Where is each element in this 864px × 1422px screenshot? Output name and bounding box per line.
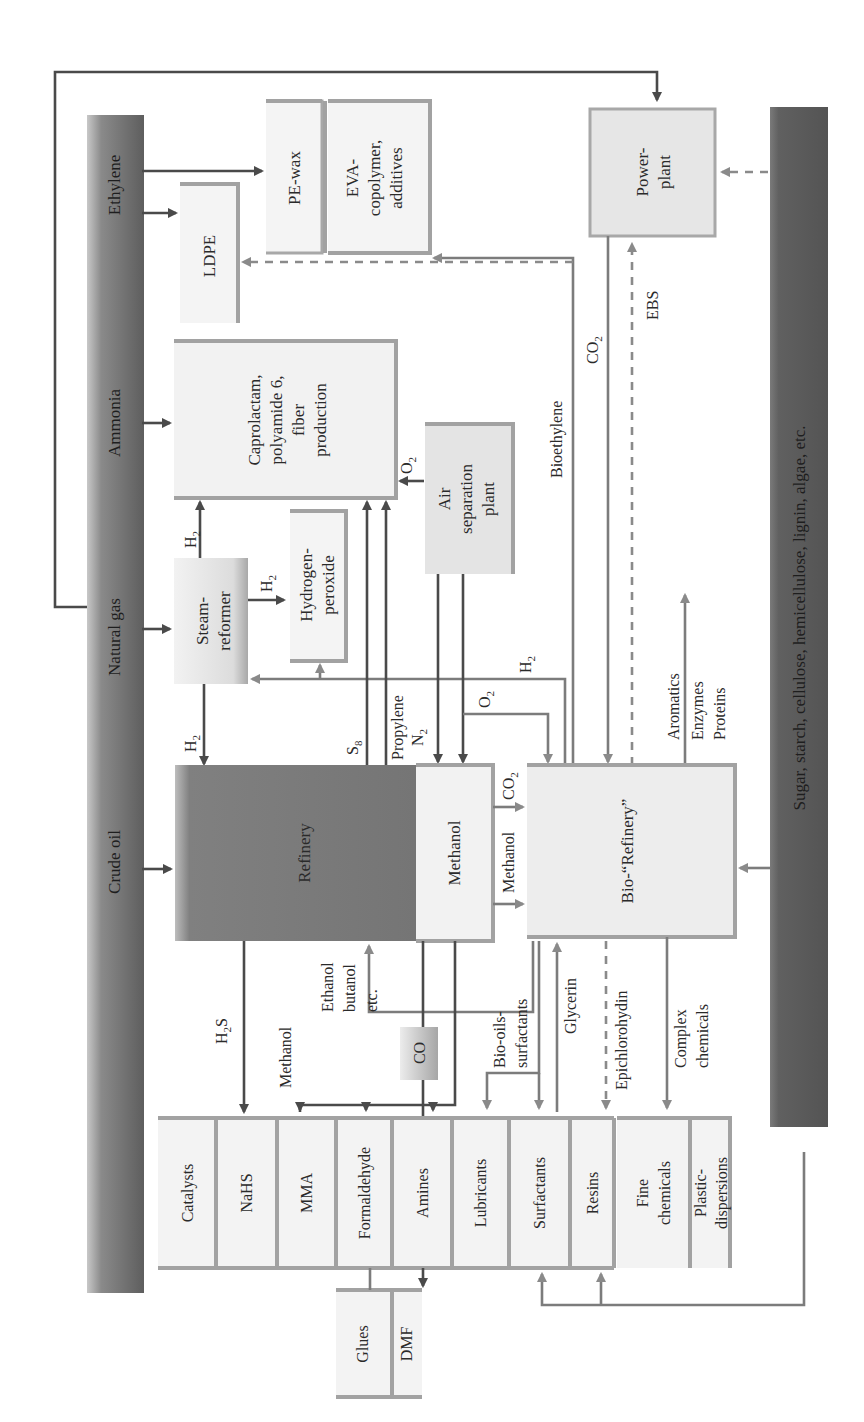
label-hydrogen-peroxide-2: peroxide	[319, 555, 338, 614]
label-glycerin: Glycerin	[562, 978, 580, 1034]
label-h2-return: H2	[517, 656, 537, 673]
product-lubricants: Lubricants	[472, 1159, 489, 1227]
label-hydrogen-peroxide-1: Hydrogen-	[297, 548, 316, 622]
label-caprolactam-1: Caprolactam,	[245, 374, 264, 465]
label-co2-methanol: CO2	[500, 772, 520, 800]
label-h2-peroxide: H2	[258, 575, 278, 592]
label-air-separation-2: separation	[457, 464, 476, 534]
label-o2-bio: O2	[476, 691, 496, 708]
label-proteins: Proteins	[711, 688, 728, 740]
process-diagram-main: O2	[0, 0, 864, 1422]
label-methanol-products: Methanol	[277, 1026, 294, 1088]
label-ethanol-2: butanol	[341, 963, 358, 1012]
label-enzymes: Enzymes	[689, 681, 707, 740]
label-natural-gas: Natural gas	[105, 598, 124, 676]
flow-h2-return	[252, 679, 565, 765]
label-renewable-feedstock: Sugar, starch, cellulose, hemicellulose,…	[790, 426, 809, 811]
product-formaldehyde: Formaldehyde	[356, 1147, 374, 1239]
product-plastic-dispersions-2: dispersions	[713, 1157, 731, 1229]
label-caprolactam-3: fiber	[289, 404, 308, 436]
label-steam-reformer-2: reformer	[215, 591, 234, 651]
label-caprolactam-2: polyamide 6,	[267, 376, 286, 465]
label-ebs: EBS	[644, 291, 661, 320]
label-pe-wax: PE-wax	[285, 151, 304, 205]
label-propylene: Propylene	[389, 695, 407, 760]
product-catalysts: Catalysts	[179, 1164, 197, 1223]
label-n2: N2	[409, 729, 429, 746]
product-fine-chemicals-2: chemicals	[656, 1161, 673, 1225]
label-caprolactam-4: production	[311, 383, 330, 457]
label-epichlorohydrin: Epichlorohydin	[613, 990, 631, 1090]
label-power-plant-2: plant	[655, 155, 674, 189]
label-co-unit: CO	[411, 1042, 428, 1064]
label-co2-power: CO2	[584, 336, 604, 364]
product-glues: Glues	[354, 1325, 371, 1362]
label-methanol-to-bio: Methanol	[500, 831, 517, 893]
label-o2-caprolactam: O2	[398, 457, 418, 474]
label-methanol-unit: Methanol	[445, 820, 464, 885]
label-h2-refinery: H2	[182, 735, 202, 752]
label-ldpe: LDPE	[200, 235, 219, 278]
flow-ethanol-to-refinery	[369, 941, 533, 1012]
product-amines: Amines	[414, 1168, 431, 1218]
product-nahs: NaHS	[238, 1173, 255, 1212]
product-fine-chemicals-1: Fine	[634, 1179, 651, 1207]
label-ethanol-1: Ethanol	[319, 962, 336, 1012]
label-aromatics: Aromatics	[665, 673, 682, 740]
label-ammonia: Ammonia	[105, 389, 124, 457]
flow-o2-to-bio	[463, 714, 548, 762]
product-mma: MMA	[298, 1173, 315, 1213]
label-refinery: Refinery	[295, 823, 314, 883]
label-h2s: H2S	[213, 1018, 233, 1044]
fossil-feedstock-bar-long	[87, 115, 144, 1293]
product-plastic-dispersions-1: Plastic-	[692, 1169, 709, 1217]
label-complex-1: Complex	[672, 1009, 690, 1068]
label-s8: S8	[344, 740, 364, 755]
label-air-separation-3: plant	[479, 482, 498, 516]
label-crude-oil: Crude oil	[105, 830, 124, 894]
label-steam-reformer-1: Steam-	[193, 597, 212, 645]
label-eva-2: copolymer,	[365, 140, 384, 216]
label-power-plant-1: Power-	[633, 147, 652, 196]
label-eva-3: additives	[387, 147, 406, 208]
product-resins: Resins	[584, 1172, 601, 1215]
product-dmf: DMF	[398, 1327, 415, 1362]
label-bio-refinery: Bio-“Refinery”	[618, 799, 637, 904]
label-biooils-2: surfactants	[513, 999, 530, 1068]
label-ethylene: Ethylene	[105, 155, 124, 215]
product-surfactants: Surfactants	[531, 1157, 548, 1229]
power-plant-box	[590, 109, 715, 236]
label-eva-1: EVA-	[343, 158, 362, 197]
label-bioethylene: Bioethylene	[548, 401, 566, 478]
label-air-separation-1: Air	[435, 487, 454, 510]
label-biooils-1: Bio-oils-	[491, 1011, 508, 1068]
label-complex-2: chemicals	[694, 1004, 711, 1068]
label-ethanol-3: etc.	[363, 989, 380, 1012]
